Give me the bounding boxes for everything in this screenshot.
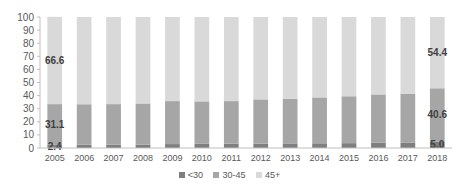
bar-segment	[401, 142, 416, 148]
legend-label: 30-45	[222, 170, 245, 180]
legend-label: 45+	[265, 170, 280, 180]
bar-segment	[77, 17, 92, 104]
legend-label: <30	[188, 170, 203, 180]
bar-segment	[253, 17, 268, 99]
legend-swatch-icon	[256, 172, 262, 178]
bar-segment	[165, 101, 180, 144]
legend-swatch-icon	[213, 172, 219, 178]
bar-segment	[195, 101, 210, 143]
y-tick-label: 80	[23, 38, 35, 49]
bar-segment	[224, 101, 239, 144]
x-tick-label: 2014	[310, 153, 330, 163]
x-axis: 2005200620072008200920102011201220132014…	[40, 148, 452, 163]
x-tick-label: 2017	[398, 153, 418, 163]
bar-segment	[136, 103, 151, 144]
bars	[47, 17, 444, 148]
y-tick-label: 20	[23, 116, 35, 127]
y-tick-label: 50	[23, 77, 35, 88]
bar-segment	[77, 104, 92, 144]
bar-segment	[106, 145, 121, 148]
x-tick-label: 2010	[192, 153, 212, 163]
y-tick-label: 60	[23, 64, 35, 75]
y-tick-label: 0	[28, 143, 34, 154]
bar-segment	[312, 17, 327, 97]
data-labels: 2.431.166.65.040.654.4	[45, 47, 447, 152]
bar-segment	[106, 104, 121, 144]
legend-item-under-30: <30	[179, 170, 203, 180]
bar-segment	[253, 144, 268, 148]
bar-segment	[165, 144, 180, 148]
bar-segment	[312, 97, 327, 143]
data-label: 31.1	[45, 119, 65, 130]
x-tick-label: 2013	[280, 153, 300, 163]
y-tick-label: 100	[17, 12, 34, 23]
data-label: 40.6	[428, 109, 448, 120]
data-label: 66.6	[45, 55, 65, 66]
bar-segment	[253, 99, 268, 143]
y-tick-label: 30	[23, 103, 35, 114]
bar-segment	[342, 96, 357, 143]
x-tick-label: 2015	[339, 153, 359, 163]
y-tick-label: 10	[23, 129, 35, 140]
y-tick-label: 40	[23, 90, 35, 101]
bar-segment	[136, 17, 151, 103]
bar-segment	[371, 17, 386, 94]
legend: <30 30-45 45+	[0, 170, 459, 180]
bar-segment	[195, 17, 210, 101]
bar-segment	[342, 143, 357, 148]
data-label: 2.4	[48, 141, 62, 152]
bar-segment	[136, 145, 151, 148]
x-tick-label: 2007	[104, 153, 124, 163]
bar-segment	[371, 94, 386, 142]
data-label: 5.0	[430, 139, 444, 150]
x-tick-label: 2009	[162, 153, 182, 163]
x-tick-label: 2016	[368, 153, 388, 163]
bar-segment	[283, 17, 298, 99]
bar-segment	[224, 17, 239, 101]
bar-segment	[165, 17, 180, 101]
x-tick-label: 2011	[222, 153, 241, 163]
bar-segment	[371, 143, 386, 148]
x-tick-label: 2008	[133, 153, 153, 163]
data-label: 54.4	[428, 47, 448, 58]
x-tick-label: 2006	[74, 153, 94, 163]
x-tick-label: 2018	[427, 153, 447, 163]
legend-item-30-45: 30-45	[213, 170, 245, 180]
y-tick-label: 70	[23, 51, 35, 62]
bar-segment	[106, 17, 121, 104]
legend-swatch-icon	[179, 172, 185, 178]
bar-segment	[342, 17, 357, 96]
bar-segment	[312, 143, 327, 148]
y-tick-label: 90	[23, 25, 35, 36]
bar-segment	[401, 17, 416, 94]
legend-item-45-plus: 45+	[256, 170, 280, 180]
bar-segment	[283, 99, 298, 144]
bar-segment	[401, 94, 416, 143]
stacked-bar-chart: 0102030405060708090100 2.431.166.65.040.…	[0, 0, 459, 193]
bar-segment	[224, 144, 239, 148]
x-tick-label: 2005	[45, 153, 65, 163]
x-tick-label: 2012	[251, 153, 271, 163]
bar-segment	[195, 144, 210, 148]
y-axis: 0102030405060708090100	[17, 12, 40, 154]
bar-segment	[283, 143, 298, 148]
